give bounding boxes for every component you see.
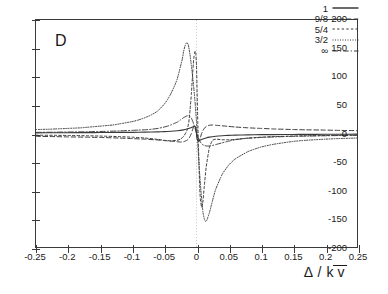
x-axis-tick-label: -0.15 <box>82 252 118 262</box>
y-axis-tick-inner <box>36 20 40 21</box>
legend-entry: 5/4 <box>283 24 359 35</box>
x-axis-tick-label: 0.2 <box>308 252 344 262</box>
x-axis-title-k: k <box>326 264 334 280</box>
y-axis-tick-label: -50 <box>333 157 347 167</box>
x-axis-title-separator: / <box>313 264 326 280</box>
y-axis-tick-label: 0 <box>342 129 347 139</box>
y-axis-tick-inner <box>36 49 40 50</box>
solid-line-key <box>332 4 359 12</box>
dashed-line-key <box>332 15 359 23</box>
x-axis-tick-label: -0.1 <box>114 252 150 262</box>
x-axis-tick-label: -0.05 <box>146 252 182 262</box>
x-axis-title-delta: Δ <box>304 264 313 280</box>
x-axis-tick-label: 0.05 <box>211 252 247 262</box>
y-axis-tick-inner <box>36 192 40 193</box>
legend-entry: 3/2 <box>283 35 359 46</box>
x-axis-tick-label: -0.25 <box>17 252 53 262</box>
legend-label: ∞ <box>321 46 328 56</box>
x-axis-tick-label: 0.1 <box>243 252 279 262</box>
legend-entry: ∞ <box>283 45 359 56</box>
dotted-line-key <box>332 36 359 44</box>
x-axis-title-vbar: v <box>334 264 345 280</box>
y-axis-tick-inner <box>36 106 40 107</box>
y-axis-tick-label: -100 <box>328 186 347 196</box>
legend-label: 3/2 <box>315 35 328 45</box>
legend: 19/85/43/2∞ <box>283 3 359 56</box>
x-axis-tick-label: 0 <box>179 252 215 262</box>
dash-dot-line-key <box>332 47 359 55</box>
y-axis-tick-label: -150 <box>328 214 347 224</box>
x-axis-tick-label: 0.25 <box>340 252 376 262</box>
y-axis-tick-label: 50 <box>336 100 347 110</box>
x-axis-tick-label: -0.2 <box>49 252 85 262</box>
x-axis-tick-label: 0.15 <box>275 252 311 262</box>
legend-entry: 9/8 <box>283 14 359 25</box>
y-axis-tick-label: 100 <box>331 71 347 81</box>
legend-label: 1 <box>323 4 328 14</box>
fine-dashed-line-key <box>332 25 359 33</box>
legend-label: 5/4 <box>315 25 328 35</box>
legend-entry: 1 <box>283 3 359 14</box>
legend-label: 9/8 <box>315 14 328 24</box>
y-axis-tick-inner <box>36 135 40 136</box>
overbar <box>333 265 347 266</box>
y-axis-tick-inner <box>36 77 40 78</box>
y-axis-tick-inner <box>36 220 40 221</box>
x-axis-title: Δ / k v <box>0 264 345 280</box>
x-axis-title-v: v <box>337 264 345 280</box>
figure-panel-d: D 200150100500-50-100-150-200 -0.25-0.2-… <box>0 0 388 294</box>
y-axis-tick-inner <box>36 163 40 164</box>
